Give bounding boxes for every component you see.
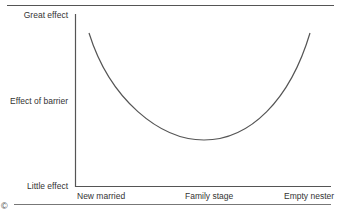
x-label-empty-nester: Empty nester bbox=[284, 191, 334, 201]
u-curve bbox=[89, 33, 310, 140]
chart-plot bbox=[0, 0, 343, 215]
copyright-icon: © bbox=[1, 201, 8, 211]
x-label-new-married: New married bbox=[77, 191, 125, 201]
x-label-family-stage: Family stage bbox=[185, 191, 233, 201]
